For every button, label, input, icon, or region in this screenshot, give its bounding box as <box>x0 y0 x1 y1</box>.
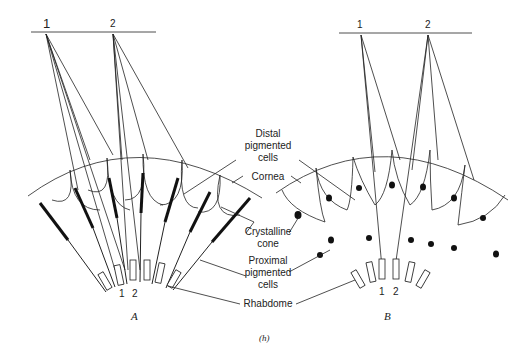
rhabdome-1-label-a: 1 <box>119 288 125 299</box>
point-1-label-b: 1 <box>357 19 363 30</box>
label-distal-pigmented-cells: Distal pigmented cells <box>240 128 296 164</box>
point-2-label-a: 2 <box>110 18 116 29</box>
point-2-label-b: 2 <box>425 19 431 30</box>
label-crystalline-cone: Crystalline cone <box>240 226 296 250</box>
panel-label-b: B <box>384 310 391 322</box>
rhabdome-2-label-a: 2 <box>132 288 138 299</box>
point-1-label-a: 1 <box>43 16 50 31</box>
figure-caption: (h) <box>259 333 270 343</box>
label-rhabdome: Rhabdome <box>240 298 296 310</box>
label-cornea: Cornea <box>244 171 292 183</box>
rhabdome-2-label-b: 2 <box>393 286 399 297</box>
rhabdome-1-label-b: 1 <box>379 286 385 297</box>
panel-label-a: A <box>131 310 138 322</box>
label-proximal-pigmented-cells: Proximal pigmented cells <box>240 255 296 291</box>
